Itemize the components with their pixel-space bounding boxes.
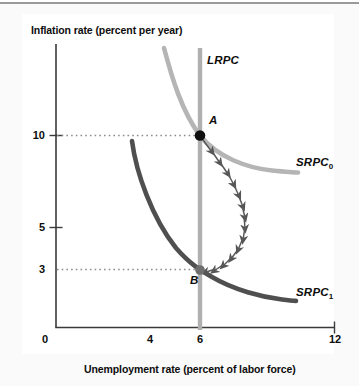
curve-srpc0 bbox=[164, 48, 298, 173]
x-tick-label-12: 12 bbox=[325, 333, 345, 345]
y-axis-title: Inflation rate (percent per year) bbox=[31, 24, 182, 36]
curve-label-srpc0-subscript: 0 bbox=[329, 162, 334, 171]
curve-label-srpc1-subscript: 1 bbox=[329, 292, 334, 301]
axis-tick-marks bbox=[50, 136, 335, 334]
x-axis-title: Unemployment rate (percent of labor forc… bbox=[84, 363, 296, 375]
chart-canvas bbox=[0, 0, 359, 386]
phillips-curve-figure: Inflation rate (percent per year) Unempl… bbox=[0, 0, 359, 386]
curve-label-srpc0: SRPC0 bbox=[296, 156, 333, 171]
point-label-a: A bbox=[209, 114, 217, 126]
y-tick-label-10: 10 bbox=[27, 129, 45, 141]
x-tick-label-0: 0 bbox=[35, 333, 55, 345]
y-tick-label-5: 5 bbox=[27, 221, 45, 233]
curve-label-lrpc: LRPC bbox=[207, 54, 239, 66]
x-tick-label-4: 4 bbox=[140, 333, 160, 345]
curve-label-srpc0-text: SRPC bbox=[296, 156, 329, 168]
curve-label-srpc1-text: SRPC bbox=[296, 286, 329, 298]
curve-srpc1 bbox=[132, 141, 296, 301]
point-label-b: B bbox=[190, 274, 198, 286]
adjustment-arrow-chain bbox=[203, 140, 245, 273]
curve-label-srpc1: SRPC1 bbox=[296, 286, 333, 301]
x-tick-label-6: 6 bbox=[190, 333, 210, 345]
point-a-marker bbox=[195, 130, 206, 141]
y-tick-label-3: 3 bbox=[27, 263, 45, 275]
